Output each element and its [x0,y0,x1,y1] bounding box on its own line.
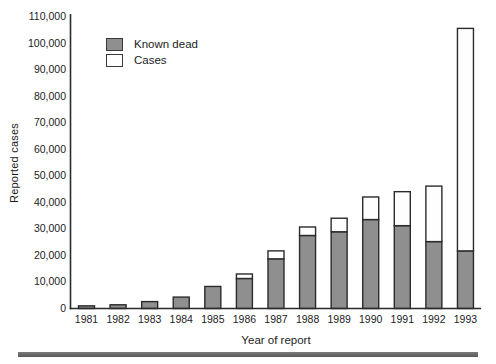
svg-text:1985: 1985 [201,313,225,325]
svg-text:0: 0 [60,302,66,314]
legend-item-known-dead: Known dead [106,36,198,52]
svg-text:1988: 1988 [296,313,320,325]
aids-cases-bar-chart-figure: 010,00020,00030,00040,00050,00060,00070,… [0,0,496,364]
svg-text:50,000: 50,000 [34,169,66,181]
legend: Known dead Cases [106,36,198,68]
svg-text:10,000: 10,000 [34,275,66,287]
known-dead-swatch-icon [106,38,123,51]
cases-swatch-icon [106,54,123,67]
svg-text:1987: 1987 [264,313,288,325]
svg-text:1991: 1991 [391,313,415,325]
svg-text:40,000: 40,000 [34,196,66,208]
bottom-divider-rule [18,352,478,357]
legend-item-cases: Cases [106,52,198,68]
svg-text:1984: 1984 [170,313,194,325]
svg-text:1993: 1993 [454,313,478,325]
svg-text:80,000: 80,000 [34,90,66,102]
legend-label-cases: Cases [134,52,167,68]
svg-text:1990: 1990 [359,313,383,325]
svg-text:70,000: 70,000 [34,116,66,128]
x-axis-title: Year of report [241,334,310,346]
svg-text:20,000: 20,000 [34,249,66,261]
svg-text:1986: 1986 [233,313,257,325]
svg-text:100,000: 100,000 [28,37,66,49]
svg-text:1989: 1989 [327,313,351,325]
svg-text:90,000: 90,000 [34,63,66,75]
svg-text:1992: 1992 [422,313,446,325]
svg-text:1982: 1982 [106,313,130,325]
svg-text:60,000: 60,000 [34,143,66,155]
legend-label-known-dead: Known dead [134,36,198,52]
svg-text:1981: 1981 [75,313,99,325]
y-axis-title: Reported cases [8,123,20,203]
svg-text:1983: 1983 [138,313,162,325]
svg-text:110,000: 110,000 [29,10,66,22]
bar-chart-plot-area: 010,00020,00030,00040,00050,00060,00070,… [0,0,496,364]
svg-text:30,000: 30,000 [34,222,66,234]
